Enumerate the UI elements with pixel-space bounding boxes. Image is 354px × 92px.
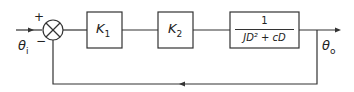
input-label: θi [18, 38, 28, 53]
tf-denominator: JD² + cD [230, 31, 299, 45]
block-k2-label: K2 [168, 21, 182, 36]
input-symbol: θ [18, 38, 26, 53]
block-diagram-lines [0, 0, 354, 92]
k2-symbol: K [168, 21, 177, 36]
plus-sign: + [34, 10, 44, 24]
output-symbol: θ [322, 38, 330, 53]
k1-subscript: 1 [105, 29, 111, 39]
k2-subscript: 2 [177, 29, 183, 39]
tf-numerator: 1 [230, 14, 299, 28]
fraction-bar [235, 29, 294, 30]
k1-symbol: K [96, 21, 105, 36]
minus-sign: − [36, 34, 46, 48]
output-label: θo [322, 38, 335, 53]
block-k1-label: K1 [96, 21, 110, 36]
transfer-function: 1 JD² + cD [230, 12, 299, 48]
output-subscript: o [330, 46, 336, 56]
